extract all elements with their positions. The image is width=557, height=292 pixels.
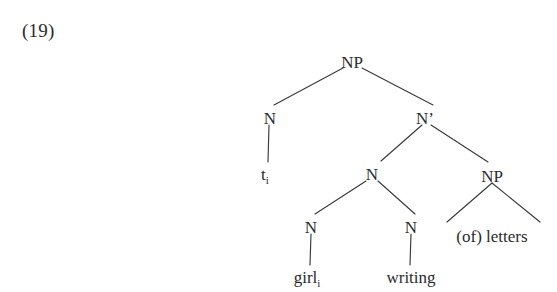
edge-mid-n-to-writing-n xyxy=(378,181,415,214)
triangle-right-edge xyxy=(492,183,540,222)
leaf-girl: girli xyxy=(294,268,321,289)
leaf-writing: writing xyxy=(386,268,436,287)
leaf-girl-text: girl xyxy=(294,268,318,287)
node-root-np: NP xyxy=(341,53,363,72)
leaf-trace: ti xyxy=(261,165,269,186)
figure-root: (19) NP N N’ ti N NP N N girli writing (… xyxy=(0,0,557,292)
node-right-np: NP xyxy=(481,167,503,186)
node-left-n: N xyxy=(264,109,276,128)
edge-root-np-to-nbar xyxy=(362,68,433,105)
leaf-trace-subscript: i xyxy=(266,174,269,186)
triangle-left-edge xyxy=(447,183,492,222)
node-n-bar: N’ xyxy=(416,109,434,128)
edge-writing-n-to-writing-leaf xyxy=(410,234,411,265)
leaf-of-letters: (of) letters xyxy=(456,227,527,246)
edge-left-n-to-trace xyxy=(268,125,269,162)
triangle-of-letters xyxy=(447,183,540,222)
syntax-tree: NP N N’ ti N NP N N girli writing (of) l… xyxy=(0,0,557,292)
edge-nbar-to-right-np xyxy=(431,125,488,162)
leaf-girl-subscript: i xyxy=(317,277,320,289)
edge-root-np-to-left-n xyxy=(274,68,343,105)
edge-girl-n-to-girl-leaf xyxy=(310,234,311,265)
node-mid-n: N xyxy=(366,165,378,184)
node-writing-n: N xyxy=(405,218,417,237)
edge-nbar-to-mid-n xyxy=(381,125,422,161)
edge-mid-n-to-girl-n xyxy=(315,181,366,214)
node-girl-n: N xyxy=(305,218,317,237)
